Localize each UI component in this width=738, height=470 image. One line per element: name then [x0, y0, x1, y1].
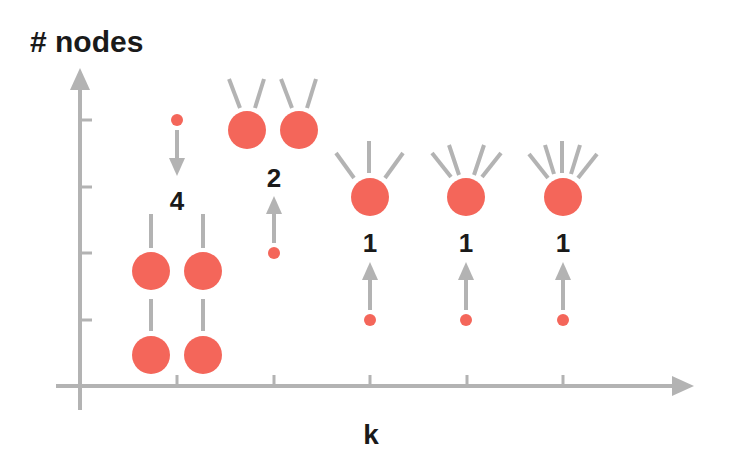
edges	[529, 141, 597, 178]
small-dot	[364, 314, 376, 326]
node	[228, 111, 266, 149]
x-axis-label: k	[363, 419, 379, 450]
edges	[336, 141, 403, 178]
node	[280, 111, 318, 149]
node	[184, 252, 222, 290]
arrow-up-icon	[458, 262, 474, 310]
arrow-up-icon	[266, 196, 282, 243]
small-dot	[268, 247, 280, 259]
group-k1	[132, 114, 222, 374]
count-label-k2: 2	[267, 163, 281, 193]
small-dot	[557, 314, 569, 326]
arrow-up-icon	[555, 262, 571, 310]
arrow-up-icon	[362, 262, 378, 310]
y-axis-label: # nodes	[30, 25, 143, 58]
arrow-down-icon	[169, 130, 185, 176]
small-dot	[460, 314, 472, 326]
y-axis	[70, 68, 92, 410]
count-label-k5: 1	[556, 228, 570, 258]
edges	[229, 79, 316, 108]
node	[351, 178, 389, 216]
degree-diagram: # nodes k 4 2 1 1 1	[0, 0, 738, 470]
edges	[432, 145, 501, 177]
node	[447, 178, 485, 216]
node	[132, 336, 170, 374]
count-label-k1: 4	[170, 186, 185, 216]
count-label-k4: 1	[459, 228, 473, 258]
count-label-k3: 1	[363, 228, 377, 258]
x-axis	[56, 375, 694, 396]
node	[132, 252, 170, 290]
node	[544, 178, 582, 216]
node	[184, 336, 222, 374]
small-dot	[171, 114, 183, 126]
